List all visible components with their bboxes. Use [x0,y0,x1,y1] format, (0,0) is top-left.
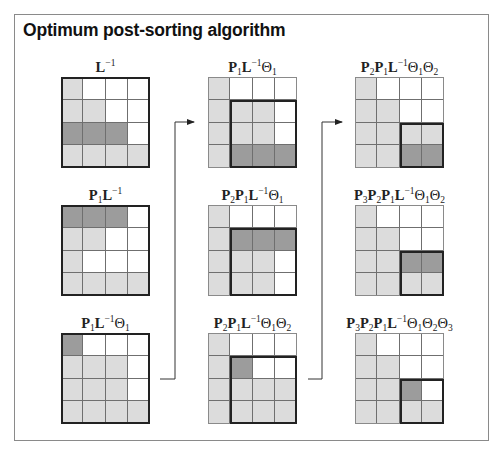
flow-arrow-col2-to-col3 [308,122,342,379]
flow-arrow-col1-to-col2 [160,122,194,379]
flow-arrows [0,0,502,458]
